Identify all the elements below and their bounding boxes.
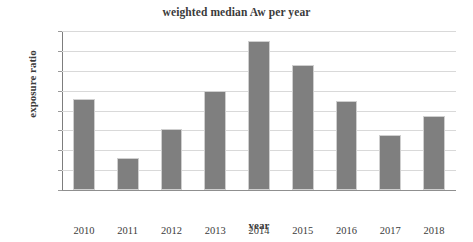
- bar: [336, 101, 358, 190]
- bar: [248, 41, 270, 190]
- bar: [73, 99, 95, 190]
- bar-chart: weighted median Aw per year exposure rat…: [0, 0, 473, 242]
- bar: [161, 129, 183, 190]
- bar: [204, 91, 226, 190]
- y-axis-tick-mark: [58, 31, 62, 32]
- y-axis-tick-mark: [58, 170, 62, 171]
- y-axis-tick-mark: [58, 190, 62, 191]
- plot-area: 0.080.070.060.050.040.030.020.010.00 201…: [62, 31, 456, 190]
- bar: [379, 135, 401, 190]
- y-axis-title: exposure ratio: [26, 4, 38, 164]
- gridline: [62, 190, 456, 191]
- chart-title: weighted median Aw per year: [0, 6, 473, 18]
- y-axis-tick-mark: [58, 91, 62, 92]
- y-axis-tick-mark: [58, 111, 62, 112]
- y-axis-tick-mark: [58, 51, 62, 52]
- x-axis-title: year: [62, 219, 456, 231]
- bar: [117, 158, 139, 190]
- y-axis-tick-mark: [58, 130, 62, 131]
- bar: [423, 116, 445, 190]
- gridline: [62, 31, 456, 32]
- y-axis-tick-mark: [58, 150, 62, 151]
- y-axis-tick-mark: [58, 71, 62, 72]
- bar: [292, 65, 314, 190]
